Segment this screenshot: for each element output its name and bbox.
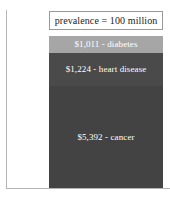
chart-canvas: prevalence = 100 million $1,011 - diabet…: [0, 0, 170, 198]
bar-segment-cancer[interactable]: $5,392 - cancer: [49, 86, 163, 188]
bar-segment-diabetes-label: $1,011 - diabetes: [74, 40, 137, 49]
prevalence-title-label: prevalence = 100 million: [55, 16, 158, 26]
bar-segment-heart-disease[interactable]: $1,224 - heart disease: [49, 53, 163, 86]
y-axis-line: [6, 10, 7, 188]
bar-segment-diabetes[interactable]: $1,011 - diabetes: [49, 36, 163, 53]
stacked-bar: $1,011 - diabetes $1,224 - heart disease…: [49, 36, 163, 188]
prevalence-title-box: prevalence = 100 million: [49, 11, 163, 30]
x-axis-baseline: [6, 188, 170, 189]
bar-segment-heart-disease-label: $1,224 - heart disease: [66, 65, 147, 74]
bar-segment-cancer-label: $5,392 - cancer: [77, 133, 134, 142]
